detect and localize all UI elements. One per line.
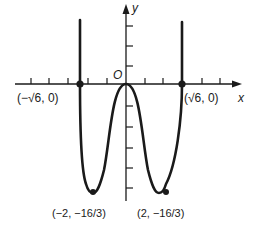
left-min-label: (−2, −16/3) (52, 208, 106, 219)
right-root-label: (√6, 0) (184, 92, 219, 104)
y-axis-arrow-icon (123, 4, 130, 14)
y-axis-label: y (132, 2, 138, 14)
right-root-point (178, 80, 185, 87)
graph-canvas (0, 0, 256, 225)
left-root-point (76, 80, 83, 87)
right-min-point (163, 189, 169, 195)
left-root-label: (−√6, 0) (17, 92, 59, 104)
x-axis-label: x (238, 92, 244, 104)
x-axis-arrow-icon (232, 81, 242, 88)
y-axis-ticks (126, 26, 133, 188)
left-min-point (90, 189, 96, 195)
right-min-label: (2, −16/3) (137, 208, 184, 219)
origin-label: O (113, 69, 122, 81)
